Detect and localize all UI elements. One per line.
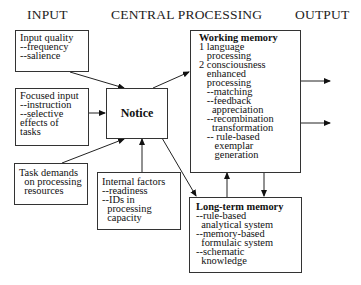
notice-title: Notice <box>121 109 154 118</box>
task-demands-box: Task demands on processing resources <box>14 163 88 205</box>
notice-box: Notice <box>106 88 168 139</box>
internal-factors-line: capacity <box>102 213 176 222</box>
input-quality-line: --salience <box>20 51 84 60</box>
long-term-memory-line: knowledge <box>196 256 297 265</box>
internal-factors-box: Internal factors --readiness --IDs in pr… <box>97 172 181 230</box>
working-memory-line: generation <box>199 150 296 159</box>
working-memory-box: Working memory 1 language processing 2 c… <box>190 30 301 173</box>
focused-input-box: Focused input --instruction --selective … <box>15 88 89 146</box>
input-quality-box: Input quality --frequency --salience <box>15 30 89 72</box>
focused-input-line: tasks <box>20 127 84 136</box>
arrow-notice-to-working-memory <box>153 72 189 88</box>
arrow-input-quality-to-notice <box>70 72 124 88</box>
long-term-memory-box: Long-term memory --rule-based analytical… <box>189 197 302 273</box>
task-demands-line: resources <box>19 186 83 195</box>
